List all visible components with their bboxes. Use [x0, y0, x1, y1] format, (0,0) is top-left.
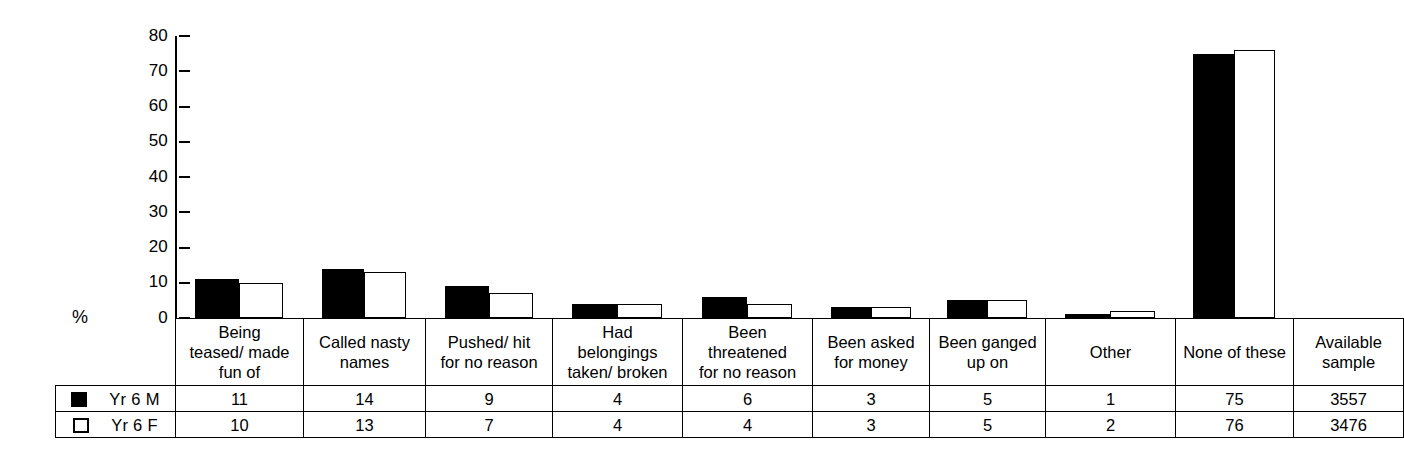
column-header-line: Been [683, 322, 812, 342]
y-tick-label: 10 [149, 273, 177, 290]
table-cell-value: 11 [176, 386, 304, 412]
table-cell-value: 5 [930, 412, 1046, 438]
bar-group [812, 36, 929, 318]
bar-yr6f [489, 293, 533, 318]
column-header-line: Other [1046, 342, 1175, 362]
table-cell-value: 7 [426, 412, 553, 438]
table-cell-value: 2 [1046, 412, 1176, 438]
column-header-line: teased/ made [176, 342, 303, 362]
y-tick-label: 70 [149, 62, 177, 79]
column-header-line: None of these [1176, 342, 1293, 362]
bar-yr6f [239, 283, 283, 318]
y-tick-label: 80 [149, 27, 177, 44]
legend-label: Yr 6 M [109, 390, 159, 408]
column-header: Availablesample [1294, 319, 1404, 386]
column-header-line: taken/ broken [553, 362, 682, 382]
table-cell-value: 3 [813, 412, 930, 438]
bar-group [303, 36, 425, 318]
legend-row-yr6f: Yr 6 F [56, 412, 176, 438]
table-cell-value: 75 [1176, 386, 1294, 412]
bar-group [175, 36, 303, 318]
column-header: Beingteased/ madefun of [176, 319, 304, 386]
bars-layer [177, 36, 1308, 318]
table-corner-cell [56, 319, 176, 386]
table-cell-value: 10 [176, 412, 304, 438]
bar-group [425, 36, 552, 318]
bar-yr6f [987, 300, 1027, 318]
column-header-line: for money [813, 352, 929, 372]
column-header: Beenthreatenedfor no reason [683, 319, 813, 386]
legend-swatch-filled-square-icon [71, 392, 87, 407]
table-cell-value: 4 [553, 412, 683, 438]
column-header: Called nastynames [304, 319, 426, 386]
bar-yr6f [1234, 50, 1275, 318]
column-header: None of these [1176, 319, 1294, 386]
legend-label: Yr 6 F [111, 416, 158, 434]
table-row: Yr 6 F1013744352763476 [56, 412, 1404, 438]
bar-group [1175, 36, 1293, 318]
table-cell-value: 76 [1176, 412, 1294, 438]
bar-yr6m [1193, 54, 1234, 318]
bar-yr6f [364, 272, 406, 318]
column-header-line: for no reason [683, 362, 812, 382]
table-row: Yr 6 M1114946351753557 [56, 386, 1404, 412]
column-header-line: belongings [553, 342, 682, 362]
legend-row-yr6m: Yr 6 M [56, 386, 176, 412]
column-header-line: threatened [683, 342, 812, 362]
legend-swatch-hollow-square-icon [73, 418, 89, 433]
bar-yr6m [322, 269, 364, 318]
bar-yr6m [702, 297, 747, 318]
column-header-line: Being [176, 322, 303, 342]
column-header: Been gangedup on [930, 319, 1046, 386]
column-header-line: Available [1294, 332, 1403, 352]
plot-area: 80706050403020100 % [0, 0, 1308, 320]
bar-yr6f [871, 307, 911, 318]
bar-yr6m [445, 286, 489, 318]
table-cell-value: 6 [683, 386, 813, 412]
column-header: Pushed/ hitfor no reason [426, 319, 553, 386]
table-cell-value: 3 [813, 386, 930, 412]
bar-yr6m [572, 304, 617, 318]
column-header-line: up on [930, 352, 1045, 372]
column-header-line: Been ganged [930, 332, 1045, 352]
table-cell-value: 3476 [1294, 412, 1404, 438]
column-header: Other [1046, 319, 1176, 386]
bar-yr6f [1110, 311, 1155, 318]
y-tick-label: 20 [149, 238, 177, 255]
bar-group [552, 36, 682, 318]
table-cell-value: 14 [304, 386, 426, 412]
column-header-line: Called nasty [304, 332, 425, 352]
table-cell-value: 4 [683, 412, 813, 438]
column-header-line: Been asked [813, 332, 929, 352]
bar-group [929, 36, 1045, 318]
y-tick-label: 60 [149, 97, 177, 114]
y-tick-label: 40 [149, 168, 177, 185]
column-header-line: for no reason [426, 352, 552, 372]
table-header-row: Beingteased/ madefun ofCalled nastynames… [56, 319, 1404, 386]
column-header: Been askedfor money [813, 319, 930, 386]
bar-group [1045, 36, 1175, 318]
table-cell-value: 1 [1046, 386, 1176, 412]
table-cell-value: 4 [553, 386, 683, 412]
table-cell-value: 3557 [1294, 386, 1404, 412]
table-cell-value: 9 [426, 386, 553, 412]
data-table: Beingteased/ madefun ofCalled nastynames… [55, 318, 1404, 438]
column-header-line: sample [1294, 352, 1403, 372]
column-header-line: fun of [176, 362, 303, 382]
bar-yr6m [195, 279, 239, 318]
table-cell-value: 5 [930, 386, 1046, 412]
column-header-line: names [304, 352, 425, 372]
data-table-wrap: Beingteased/ madefun ofCalled nastynames… [55, 318, 1283, 438]
bar-yr6m [831, 307, 871, 318]
bar-yr6f [617, 304, 662, 318]
bar-group [682, 36, 812, 318]
table-cell-value: 13 [304, 412, 426, 438]
bar-yr6f [747, 304, 792, 318]
column-header-line: Had [553, 322, 682, 342]
bar-yr6m [947, 300, 987, 318]
y-tick-label: 30 [149, 203, 177, 220]
column-header: Hadbelongingstaken/ broken [553, 319, 683, 386]
column-header-line: Pushed/ hit [426, 332, 552, 352]
y-tick-label: 50 [149, 132, 177, 149]
